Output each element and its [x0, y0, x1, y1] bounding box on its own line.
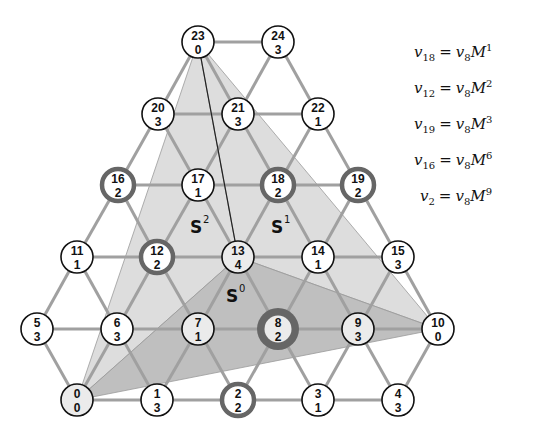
node-6: 63: [101, 313, 133, 345]
node-value: 1: [315, 115, 322, 129]
node-15: 153: [382, 241, 414, 273]
node-id: 10: [431, 316, 445, 330]
node-value: 1: [195, 330, 202, 344]
equation: v12=v8M2: [414, 66, 538, 102]
node-value: 0: [74, 401, 81, 415]
node-4: 43: [382, 384, 414, 416]
node-id: 15: [391, 244, 405, 258]
node-7: 71: [182, 313, 214, 345]
node-22: 221: [302, 98, 334, 130]
node-id: 8: [275, 316, 282, 330]
lhs-sub: 12: [422, 88, 435, 99]
node-id: 5: [34, 316, 41, 330]
lhs-sub: 18: [422, 52, 435, 63]
equals-sign: =: [435, 187, 456, 205]
rhs-var: v: [456, 43, 464, 61]
node-20: 203: [142, 98, 174, 130]
node-id: 19: [351, 172, 365, 186]
lhs-sub: 16: [422, 160, 435, 171]
node-3: 31: [302, 384, 334, 416]
node-value: 1: [315, 258, 322, 272]
equation: v16=v8M6: [414, 138, 538, 174]
node-id: 14: [311, 244, 325, 258]
node-value: 3: [155, 115, 162, 129]
region-label-sup: 0: [239, 283, 245, 294]
region-label: S: [190, 217, 202, 237]
lhs-sub: 19: [422, 124, 435, 135]
node-value: 1: [74, 258, 81, 272]
region-label: S: [271, 217, 283, 237]
node-9: 93: [342, 313, 374, 345]
node-17: 171: [182, 169, 214, 201]
node-value: 3: [395, 258, 402, 272]
node-id: 24: [271, 29, 285, 43]
equals-sign: =: [435, 79, 456, 97]
node-value: 0: [195, 43, 202, 57]
node-11: 111: [61, 241, 93, 273]
node-id: 1: [154, 387, 161, 401]
node-id: 17: [191, 172, 205, 186]
node-value: 3: [395, 401, 402, 415]
node-id: 0: [74, 387, 81, 401]
region-label-sup: 2: [203, 214, 209, 225]
node-id: 7: [195, 316, 202, 330]
power: 2: [486, 78, 492, 89]
rhs-var: v: [455, 187, 463, 205]
equation: v2=v8M9: [414, 174, 538, 210]
node-value: 3: [235, 115, 242, 129]
node-id: 12: [150, 244, 164, 258]
node-value: 3: [275, 43, 282, 57]
matrix: M: [471, 115, 486, 133]
node-value: 2: [235, 401, 242, 415]
equation: v18=v8M1: [414, 30, 538, 66]
node-value: 3: [154, 401, 161, 415]
node-value: 4: [235, 258, 242, 272]
node-id: 6: [114, 316, 121, 330]
rhs-var: v: [456, 115, 464, 133]
equation: v19=v8M3: [414, 102, 538, 138]
node-id: 20: [151, 101, 165, 115]
region-label-sup: 1: [284, 214, 290, 225]
node-1: 13: [141, 384, 173, 416]
rhs-var: v: [456, 151, 464, 169]
equals-sign: =: [435, 115, 456, 133]
matrix: M: [471, 151, 486, 169]
matrix: M: [471, 43, 486, 61]
node-id: 3: [315, 387, 322, 401]
node-id: 22: [311, 101, 325, 115]
node-2: 22: [222, 384, 254, 416]
node-24: 243: [262, 26, 294, 58]
node-5: 53: [21, 313, 53, 345]
lhs-sub: 2: [428, 196, 434, 207]
node-12: 122: [141, 241, 173, 273]
rhs-var: v: [456, 79, 464, 97]
node-value: 1: [195, 186, 202, 200]
node-id: 21: [231, 101, 245, 115]
node-value: 2: [355, 186, 362, 200]
node-id: 2: [235, 387, 242, 401]
power: 3: [486, 114, 492, 125]
power: 1: [486, 42, 492, 53]
node-value: 3: [34, 330, 41, 344]
node-16: 162: [102, 169, 134, 201]
node-0: 00: [61, 384, 93, 416]
power: 9: [486, 186, 492, 197]
equals-sign: =: [435, 151, 456, 169]
region-label: S: [226, 286, 238, 306]
node-value: 0: [435, 330, 442, 344]
node-id: 18: [271, 172, 285, 186]
node-18: 182: [262, 169, 294, 201]
node-13: 134: [222, 241, 254, 273]
equations-panel: v18=v8M1 v12=v8M2 v19=v8M3 v16=v8M6 v2=v…: [414, 30, 538, 210]
node-8: 82: [257, 308, 299, 350]
node-14: 141: [302, 241, 334, 273]
matrix: M: [471, 79, 486, 97]
node-id: 16: [111, 172, 125, 186]
node-value: 2: [115, 186, 122, 200]
node-id: 13: [231, 244, 245, 258]
node-id: 11: [71, 244, 84, 258]
node-id: 23: [191, 29, 205, 43]
matrix: M: [470, 187, 485, 205]
node-value: 2: [275, 330, 282, 344]
node-23: 230: [182, 26, 214, 58]
